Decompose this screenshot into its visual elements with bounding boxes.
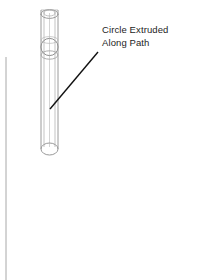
annotation-label: Circle Extruded Along Path (102, 24, 196, 49)
figure-canvas: Circle Extruded Along Path (0, 0, 198, 280)
annotation-leader-line (50, 52, 98, 109)
annotation-label-line-2: Along Path (102, 37, 196, 50)
annotation-label-line-1: Circle Extruded (102, 24, 196, 37)
tube-body (41, 13, 58, 149)
